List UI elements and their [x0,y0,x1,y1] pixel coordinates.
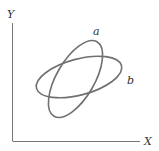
y-axis-label: Y [7,8,16,21]
ellipse-b [32,48,126,106]
x-axis-label: X [143,135,153,148]
ellipse-a [38,32,114,125]
diagram-canvas: Y X a b [0,0,159,151]
ellipse-a-label: a [93,25,100,38]
ellipse-b-label: b [127,74,134,87]
